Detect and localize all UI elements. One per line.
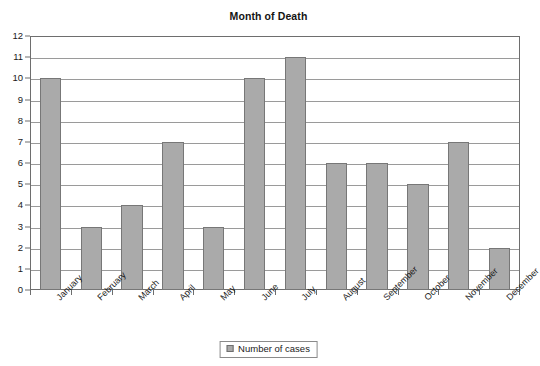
x-tick-mark xyxy=(30,290,31,295)
gridline xyxy=(31,58,519,59)
y-tick-label: 8 xyxy=(18,116,23,126)
gridline xyxy=(31,143,519,144)
gridline xyxy=(31,164,519,165)
gridline xyxy=(31,249,519,250)
gridline xyxy=(31,270,519,271)
y-tick-label: 5 xyxy=(18,179,23,189)
y-tick-label: 0 xyxy=(18,285,23,295)
gridline xyxy=(31,228,519,229)
gridline xyxy=(31,206,519,207)
y-axis: 0123456789101112 xyxy=(0,36,30,290)
chart-legend: Number of cases xyxy=(219,341,318,358)
y-tick-label: 1 xyxy=(18,264,23,274)
legend-label: Number of cases xyxy=(238,344,310,354)
gridline xyxy=(31,185,519,186)
gridline xyxy=(31,101,519,102)
y-tick-label: 9 xyxy=(18,95,23,105)
y-tick-label: 2 xyxy=(18,243,23,253)
gridline xyxy=(31,122,519,123)
y-tick-label: 11 xyxy=(13,52,23,62)
y-tick-label: 10 xyxy=(12,74,23,84)
gridline xyxy=(31,79,519,80)
y-tick-label: 3 xyxy=(18,222,23,232)
plot-area xyxy=(30,36,520,290)
y-tick-label: 4 xyxy=(18,201,23,211)
gridlines xyxy=(31,37,519,289)
y-tick-label: 7 xyxy=(18,137,23,147)
chart-title: Month of Death xyxy=(0,10,537,22)
y-tick-label: 6 xyxy=(18,158,23,168)
x-axis: JanuaryFebruaryMarchAprilMayJuneJulyAugu… xyxy=(30,296,520,342)
y-tick-label: 12 xyxy=(12,31,23,41)
legend-swatch-icon xyxy=(226,345,233,352)
